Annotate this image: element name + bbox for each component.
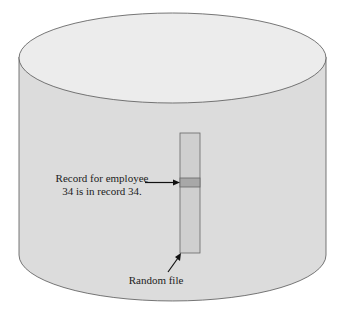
record-34-highlight bbox=[180, 178, 200, 187]
random-file-block bbox=[180, 133, 200, 253]
cylinder-top bbox=[19, 13, 326, 103]
disk-cylinder bbox=[0, 0, 341, 313]
record-label: Record for employee 34 is in record 34. bbox=[48, 172, 156, 198]
record-label-line1: Record for employee bbox=[48, 172, 156, 185]
record-label-line2: 34 is in record 34. bbox=[48, 185, 156, 198]
random-file-label: Random file bbox=[126, 274, 186, 287]
